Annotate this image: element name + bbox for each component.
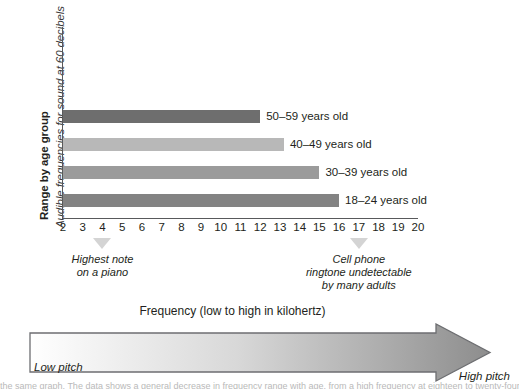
x-tick-19: 19 xyxy=(392,221,405,233)
gradient-arrow-icon xyxy=(28,323,493,383)
annotation-marker-cellphone xyxy=(350,238,368,249)
annotation-text-cellphone: Cell phone ringtone undetectable by many… xyxy=(306,253,412,292)
x-tick-9: 9 xyxy=(198,221,204,233)
bar-2 xyxy=(63,138,284,151)
y-axis-title-group: Range by age group Audible frequencies f… xyxy=(0,0,62,228)
x-axis-line xyxy=(62,218,418,219)
x-tick-10: 10 xyxy=(214,221,227,233)
x-tick-12: 12 xyxy=(254,221,267,233)
x-tick-6: 6 xyxy=(139,221,145,233)
page-caption-sliver: the same graph. The data shows a general… xyxy=(0,381,519,389)
x-tick-8: 8 xyxy=(178,221,184,233)
bar-label-1: 50–59 years old xyxy=(266,110,348,123)
low-pitch-label: Low pitch xyxy=(34,361,83,373)
x-tick-7: 7 xyxy=(158,221,164,233)
x-tick-3: 3 xyxy=(80,221,86,233)
plot-area: 50–59 years old40–49 years old30–39 year… xyxy=(62,27,418,219)
bar-label-2: 40–49 years old xyxy=(290,138,372,151)
annotation-marker-piano xyxy=(93,238,111,249)
band-title: Frequency (low to high in kilohertz) xyxy=(0,304,465,318)
x-tick-2: 2 xyxy=(60,221,66,233)
bar-label-3: 30–39 years old xyxy=(325,166,407,179)
x-tick-18: 18 xyxy=(372,221,385,233)
x-tick-20: 20 xyxy=(412,221,425,233)
x-axis-tick-labels: 234567891011121314151617181920 xyxy=(62,221,442,237)
x-tick-17: 17 xyxy=(352,221,365,233)
x-tick-11: 11 xyxy=(235,221,247,233)
y-axis-line xyxy=(62,27,63,219)
y-axis-title-bold: Range by age group xyxy=(38,111,50,220)
x-tick-4: 4 xyxy=(99,221,105,233)
bar-3 xyxy=(63,166,319,179)
x-tick-15: 15 xyxy=(313,221,326,233)
bar-label-4: 18–24 years old xyxy=(345,194,427,207)
x-tick-16: 16 xyxy=(333,221,346,233)
x-tick-5: 5 xyxy=(119,221,125,233)
bar-4 xyxy=(63,194,339,207)
x-tick-14: 14 xyxy=(293,221,306,233)
frequency-gradient-band: Frequency (low to high in kilohertz) Low… xyxy=(0,300,519,389)
x-tick-13: 13 xyxy=(274,221,287,233)
bar-1 xyxy=(63,110,260,123)
annotation-text-piano: Highest note on a piano xyxy=(72,253,134,279)
